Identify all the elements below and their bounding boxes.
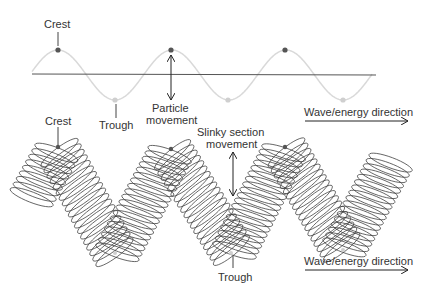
slinky-section-movement-label-2: movement xyxy=(206,138,257,151)
slinky-coil xyxy=(333,213,380,239)
slinky-coil xyxy=(341,197,388,223)
slinky-coils xyxy=(8,134,414,270)
trough-dot xyxy=(112,97,117,102)
slinky-trough-dot xyxy=(229,251,233,255)
crest-dot xyxy=(168,47,173,52)
top-trough-label: Trough xyxy=(99,119,133,132)
slinky-coil xyxy=(69,190,112,226)
slinky-coil xyxy=(8,184,55,210)
slinky-coil xyxy=(81,212,124,248)
top-crest-label: Crest xyxy=(44,18,70,31)
slinky-crest-dot xyxy=(56,145,60,149)
slinky-coil xyxy=(364,155,411,181)
trough-dot xyxy=(225,97,230,102)
slinky-coil xyxy=(367,150,414,176)
slinky-crest-dot xyxy=(169,147,173,151)
slinky-coil xyxy=(347,187,394,213)
slinky-trough-dot xyxy=(341,248,345,252)
slinky-coil xyxy=(47,151,90,187)
slinky-coil xyxy=(117,196,164,222)
wave-diagram: Crest Trough Particle movement Wave/ener… xyxy=(0,0,430,300)
particle-movement-label-2: movement xyxy=(146,114,197,127)
slinky-coil xyxy=(72,196,115,232)
slinky-coil xyxy=(126,180,173,206)
slinky-coil xyxy=(114,202,161,228)
slinky-coil xyxy=(138,158,185,184)
slinky-coil xyxy=(356,171,403,197)
crest-dot xyxy=(282,47,287,52)
slinky-coil xyxy=(123,185,170,211)
slinky-crest-dot xyxy=(283,145,287,149)
slinky-coil xyxy=(78,207,121,243)
slinky-trough-label: Trough xyxy=(218,271,252,284)
slinky-trough-dot xyxy=(113,251,117,255)
slinky-coil xyxy=(120,191,167,217)
slinky-crest-label: Crest xyxy=(45,115,71,128)
slinky-coil xyxy=(75,201,118,237)
bottom-direction-label: Wave/energy direction xyxy=(304,255,413,268)
trough-dot xyxy=(340,97,345,102)
slinky-coil xyxy=(65,185,108,221)
top-direction-label: Wave/energy direction xyxy=(304,106,413,119)
crest-dot xyxy=(55,47,60,52)
slinky-coil xyxy=(84,218,127,254)
slinky-coil xyxy=(53,162,96,198)
slinky-coil xyxy=(361,160,408,186)
slinky-coil xyxy=(359,166,406,192)
slinky-coil xyxy=(344,192,391,218)
slinky-coil xyxy=(62,179,105,215)
wave-baseline xyxy=(32,74,376,75)
